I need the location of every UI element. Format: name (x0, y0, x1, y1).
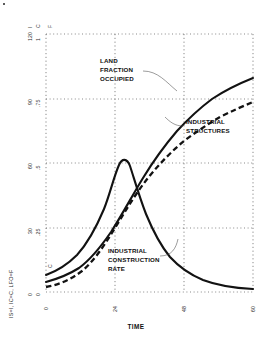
y-unit-left-I: I (27, 27, 33, 28)
y-tick-right-1: 1 (35, 38, 41, 41)
annotation-industrial-construction-rate: INDUSTRIAL CONSTRUCTION RATE (108, 247, 160, 272)
chart-svg: LAND FRACTION OCCUPIED INDUSTRIAL STRUCT… (0, 0, 272, 342)
annotation-icr-line-3: RATE (108, 265, 125, 272)
origin-unit-C: C (47, 264, 53, 268)
corner-speck (3, 3, 5, 5)
y-tick-left-30: 30 (27, 228, 33, 234)
y-axis-label: IS=I, IC=C, LFO=F (8, 269, 14, 318)
leader-industrial-structures (165, 117, 183, 126)
origin-unit-markers: C (47, 264, 53, 268)
curve-land-fraction-occupied (46, 78, 253, 282)
y-tick-left-0: 0 (27, 293, 33, 296)
y-axis-left-ticks: 120 90 60 30 0 (27, 32, 33, 296)
x-axis-label: TIME (128, 323, 145, 330)
y-axis-right-ticks: 1 .75 .5 .25 0 (35, 38, 41, 296)
annotation-land-fraction-occupied: LAND FRACTION OCCUPIED (100, 57, 134, 82)
leader-land-fraction-occupied (143, 71, 177, 91)
x-tick-0: 0 (43, 307, 49, 310)
y-unit-left-C: C (35, 24, 41, 28)
annotation-industrial-structures: INDUSTRIAL STRUCTURES (186, 118, 230, 134)
annotation-lfo-line-1: LAND (100, 57, 118, 64)
y-axis-unit-markers: I C F (27, 24, 53, 28)
annotation-is-line-1: INDUSTRIAL (186, 118, 225, 125)
figure-container: LAND FRACTION OCCUPIED INDUSTRIAL STRUCT… (0, 0, 272, 342)
annotation-lfo-line-3: OCCUPIED (100, 75, 134, 82)
x-tick-24: 24 (112, 306, 118, 312)
x-tick-48: 48 (181, 306, 187, 312)
y-tick-right-25: .25 (35, 228, 41, 236)
annotation-lfo-line-2: FRACTION (100, 66, 134, 73)
x-tick-60: 60 (250, 306, 256, 312)
y-tick-right-75: .75 (35, 99, 41, 107)
y-tick-left-60: 60 (27, 163, 33, 169)
annotation-is-line-2: STRUCTURES (186, 127, 230, 134)
annotation-icr-line-1: INDUSTRIAL (108, 247, 147, 254)
y-tick-left-90: 90 (27, 99, 33, 105)
y-unit-right-F: F (47, 25, 53, 28)
y-tick-right-0: 0 (35, 293, 41, 296)
grid-lines (46, 34, 253, 292)
annotation-icr-line-2: CONSTRUCTION (108, 256, 160, 263)
y-tick-right-5: .5 (35, 165, 41, 170)
y-tick-left-120: 120 (27, 32, 33, 41)
x-axis-ticks: 0 24 48 60 (43, 306, 256, 312)
